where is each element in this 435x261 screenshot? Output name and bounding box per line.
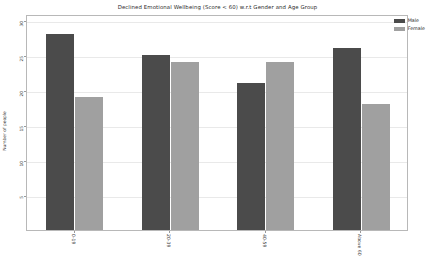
bars-layer xyxy=(27,16,407,230)
bar-female-above-60 xyxy=(362,104,390,230)
x-tick-label: 40-59 xyxy=(262,234,267,247)
x-tick-label: Above 60 xyxy=(357,234,362,256)
bar-male-above-60 xyxy=(333,48,361,230)
chart-figure: Declined Emotional Wellbeing (Score < 60… xyxy=(0,0,435,261)
bar-female-20-39 xyxy=(171,62,199,230)
bar-female-0-19 xyxy=(75,97,103,230)
legend-label: Male xyxy=(408,18,419,23)
x-tick-label: 0-19 xyxy=(71,234,76,244)
plot-area xyxy=(26,15,408,231)
chart-title: Declined Emotional Wellbeing (Score < 60… xyxy=(0,4,435,10)
bar-female-40-59 xyxy=(266,62,294,230)
y-axis-label: Number of people xyxy=(2,111,7,151)
bar-male-0-19 xyxy=(46,34,74,230)
legend-label: Female xyxy=(408,26,425,31)
legend-entry-male: Male xyxy=(394,18,425,23)
x-tick-mark xyxy=(265,231,266,233)
x-tick-label: 20-39 xyxy=(166,234,171,247)
chart-legend: MaleFemale xyxy=(394,18,425,31)
legend-entry-female: Female xyxy=(394,26,425,31)
x-tick-mark xyxy=(360,231,361,233)
bar-male-40-59 xyxy=(237,83,265,230)
bar-male-20-39 xyxy=(142,55,170,230)
x-tick-mark xyxy=(74,231,75,233)
x-tick-mark xyxy=(169,231,170,233)
legend-swatch-icon xyxy=(394,27,405,31)
legend-swatch-icon xyxy=(394,19,405,23)
